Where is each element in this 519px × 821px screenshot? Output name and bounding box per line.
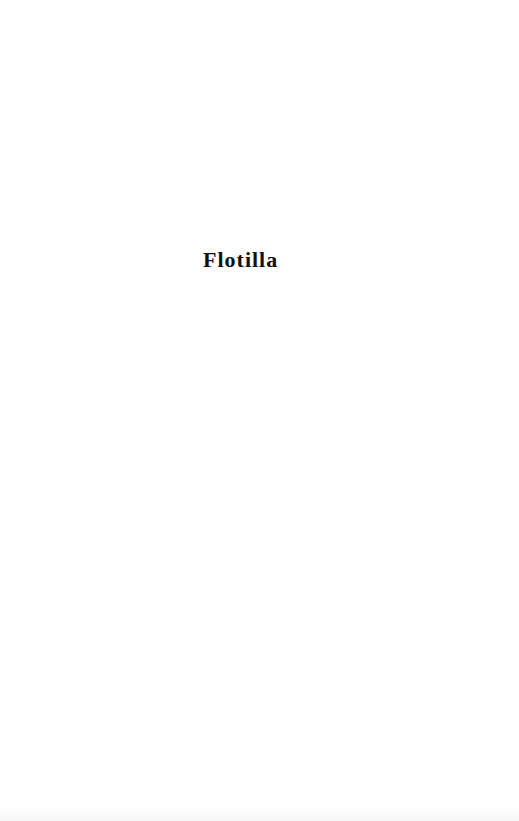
page-bottom-edge: [0, 807, 519, 821]
book-page: Flotilla: [0, 0, 519, 821]
half-title: Flotilla: [203, 246, 278, 274]
